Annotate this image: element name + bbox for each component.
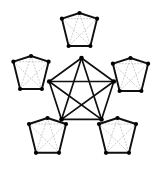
- pentagon-bottom-right-edge: [129, 124, 136, 153]
- central-k5-vertices: [47, 56, 116, 122]
- pentagon-right-vertex: [139, 89, 143, 93]
- pentagon-bottom-right-vertex: [134, 122, 138, 126]
- pentagon-right-edge: [141, 64, 148, 91]
- pentagon-right-edge: [113, 58, 131, 64]
- pentagon-right-vertex: [128, 56, 132, 60]
- pentagon-left-edge: [13, 56, 31, 62]
- pentagon-bottom-right-diagonal: [106, 124, 136, 153]
- figure-canvas: [0, 0, 163, 174]
- pentagon-bottom-right-edge: [99, 124, 106, 153]
- pentagon-left-edge: [13, 62, 20, 89]
- pentagon-top: [60, 11, 99, 48]
- outer-pentagons-layer: [11, 11, 150, 155]
- pentagon-left-vertex: [18, 87, 22, 91]
- pentagon-right-edge: [113, 64, 120, 91]
- pentagon-bottom-right-edges: [99, 118, 136, 153]
- pentagon-bottom-left-vertex: [34, 151, 38, 155]
- central-k5-vertex: [79, 56, 84, 61]
- pentagon-bottom-left-vertex: [45, 116, 49, 120]
- pentagon-bottom-left-edge: [59, 124, 66, 153]
- pentagon-left-vertex: [11, 60, 15, 64]
- pentagon-left-vertex: [40, 87, 44, 91]
- pentagon-right-vertex: [111, 62, 115, 66]
- pentagon-bottom-left-edges: [29, 118, 66, 153]
- pentagon-bottom-left-vertex: [57, 151, 61, 155]
- pentagon-top-vertex: [95, 17, 99, 21]
- pentagon-left-vertex: [47, 60, 51, 64]
- central-k5-edge: [49, 82, 101, 120]
- pentagon-bottom-right-diagonal: [106, 118, 118, 153]
- central-k5-edge: [62, 58, 82, 119]
- pentagon-top-edge: [80, 13, 98, 19]
- pentagon-top-vertex: [88, 44, 92, 48]
- pentagon-bottom-right-vertex: [104, 151, 108, 155]
- graph-diagram: [0, 0, 163, 174]
- pentagon-right: [111, 56, 150, 93]
- pentagon-bottom-right-vertex: [127, 151, 131, 155]
- central-k5-edge: [49, 58, 81, 82]
- pentagon-left-edge: [31, 56, 49, 62]
- pentagon-top-vertex: [77, 11, 81, 15]
- pentagon-bottom-left-edge: [29, 124, 36, 153]
- pentagon-top-edges: [62, 13, 97, 46]
- central-k5-layer: [47, 56, 116, 122]
- central-k5-vertex: [59, 117, 64, 122]
- pentagon-left: [11, 54, 50, 91]
- pentagon-bottom-left-diagonal: [48, 118, 60, 153]
- central-k5-edge: [102, 82, 114, 120]
- pentagon-left-edge: [42, 62, 49, 89]
- pentagon-bottom-right-diagonal: [118, 118, 130, 153]
- pentagon-bottom-right-edge: [118, 118, 137, 124]
- central-k5-vertex: [47, 79, 52, 84]
- central-k5-vertex: [99, 117, 104, 122]
- pentagon-right-edge: [131, 58, 149, 64]
- pentagon-bottom-left: [27, 116, 68, 155]
- pentagon-right-vertex: [118, 89, 122, 93]
- pentagon-bottom-left-vertex: [27, 122, 31, 126]
- central-k5-edges: [49, 58, 114, 119]
- central-k5-edge: [62, 82, 114, 120]
- pentagon-bottom-left-vertex: [64, 122, 68, 126]
- pentagon-bottom-left-diagonal: [36, 118, 48, 153]
- pentagon-left-vertex: [29, 54, 33, 58]
- pentagon-bottom-right-vertex: [97, 122, 101, 126]
- central-k5-edge: [49, 82, 61, 120]
- pentagon-top-edge: [62, 13, 80, 19]
- pentagon-bottom-right: [97, 116, 138, 155]
- pentagon-right-edges: [113, 58, 148, 91]
- pentagon-bottom-left-edge: [29, 118, 48, 124]
- pentagon-top-edge: [90, 19, 97, 46]
- pentagon-right-vertex: [146, 62, 150, 66]
- pentagon-top-vertex: [60, 17, 64, 21]
- central-k5-vertex: [112, 79, 117, 84]
- pentagon-bottom-right-vertex: [115, 116, 119, 120]
- pentagon-left-edges: [13, 56, 48, 89]
- central-k5-edge: [82, 58, 102, 119]
- central-k5-edge: [82, 58, 114, 82]
- pentagon-top-edge: [62, 19, 69, 46]
- pentagon-top-vertex: [67, 44, 71, 48]
- pentagon-bottom-left-diagonal: [36, 124, 66, 153]
